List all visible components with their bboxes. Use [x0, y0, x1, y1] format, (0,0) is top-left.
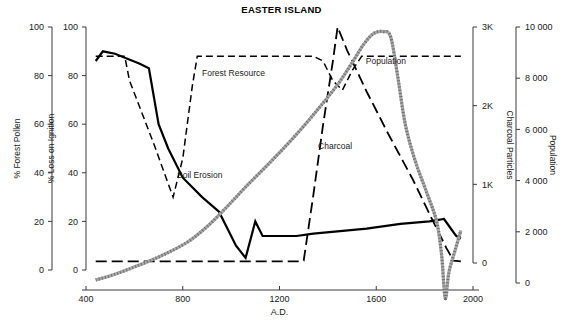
- axis-tick-label: 400: [78, 294, 93, 304]
- axis-title-forest-pollen: % Forest Pollen: [12, 118, 22, 178]
- axis-tick-label: 20: [34, 217, 44, 227]
- axis-tick-label: 80: [34, 71, 44, 81]
- axis-tick-label: 60: [68, 119, 78, 129]
- x-axis-title: A.D.: [271, 307, 289, 317]
- axis-tick-label: 20: [68, 217, 78, 227]
- axis-spine: [473, 27, 477, 263]
- axis-x: 400800120016002000A.D.: [78, 286, 483, 317]
- series-label: Forest Resource: [202, 68, 265, 78]
- series-label: Charcoal: [318, 141, 352, 151]
- axis-tick-label: 1600: [366, 294, 386, 304]
- axis-tick-label: 6 000: [525, 125, 548, 135]
- axis-population: 10 0008 0006 0004 0002 0000Population: [516, 22, 558, 288]
- axis-tick-label: 0: [39, 265, 44, 275]
- axis-tick-label: 40: [68, 168, 78, 178]
- axis-tick-label: 4 000: [525, 176, 548, 186]
- axis-tick-label: 1200: [269, 294, 289, 304]
- axis-tick-label: 2K: [482, 101, 493, 111]
- axis-tick-label: 1K: [482, 180, 493, 190]
- series-line: [96, 27, 461, 261]
- series-charcoal: Charcoal: [96, 27, 461, 261]
- axis-tick-label: 3K: [482, 22, 493, 32]
- axis-tick-label: 80: [68, 71, 78, 81]
- series-label: Soil Erosion: [177, 170, 223, 180]
- chart-figure: EASTER ISLAND 100806040200% Forest Polle…: [0, 0, 563, 321]
- chart-canvas: 100806040200% Forest Pollen020406080100%…: [0, 0, 563, 321]
- axis-tick-label: 0: [525, 278, 530, 288]
- axis-spine: [516, 27, 520, 283]
- axis-tick-label: 0: [482, 258, 487, 268]
- axis-tick-label: 8 000: [525, 73, 548, 83]
- axis-tick-label: 100: [63, 22, 78, 32]
- axis-tick-label: 800: [175, 294, 190, 304]
- axis-title-population: Population: [548, 135, 558, 175]
- axis-spine: [82, 27, 86, 270]
- series-label: Population: [366, 56, 406, 66]
- axis-tick-label: 2000: [463, 294, 483, 304]
- axis-tick-label: 0: [73, 265, 78, 275]
- axis-charcoal-particles: 3K2K1K0Charcoal Particles: [473, 22, 515, 268]
- axis-tick-label: 100: [29, 22, 44, 32]
- page-title: EASTER ISLAND: [0, 4, 563, 15]
- axis-tick-label: 60: [34, 119, 44, 129]
- axis-tick-label: 10 000: [525, 22, 553, 32]
- axis-tick-label: 40: [34, 168, 44, 178]
- axis-title-charcoal-particles: Charcoal Particles: [505, 111, 515, 180]
- axis-title-loss-on-ignition: % Loss on Ignition: [46, 114, 56, 184]
- axis-tick-label: 2 000: [525, 227, 548, 237]
